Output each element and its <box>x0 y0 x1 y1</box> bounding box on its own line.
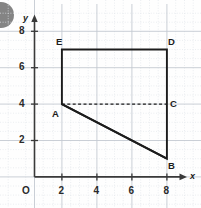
point-label-A: A <box>52 109 59 119</box>
y-axis-arrow <box>31 15 37 23</box>
y-tick-label-6: 6 <box>19 62 25 72</box>
y-axis-label: y <box>23 14 28 23</box>
x-axis-arrow <box>180 174 188 181</box>
point-label-D: D <box>168 37 175 47</box>
figure-canvas: 8 6 4 2 2 4 6 8 y x O E D A C B <box>0 0 201 208</box>
x-tick-label-6: 6 <box>129 186 135 196</box>
x-tick-label-2: 2 <box>59 186 65 196</box>
point-label-E: E <box>56 37 62 47</box>
x-tick-label-4: 4 <box>94 186 100 196</box>
point-label-B: B <box>168 161 175 171</box>
origin-label: O <box>22 186 30 196</box>
axis-ticks <box>31 31 167 180</box>
point-label-C: C <box>170 99 177 109</box>
y-tick-label-4: 4 <box>19 99 25 109</box>
y-tick-label-8: 8 <box>19 26 25 36</box>
x-axis-label: x <box>190 172 195 181</box>
x-tick-label-8: 8 <box>164 186 170 196</box>
y-tick-label-2: 2 <box>19 135 25 145</box>
